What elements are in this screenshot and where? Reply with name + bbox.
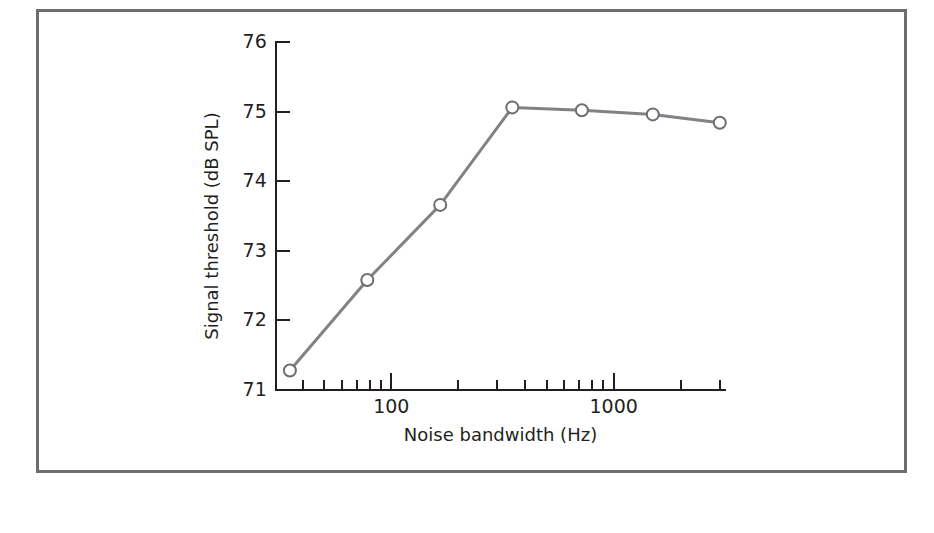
y-axis-title: Signal threshold (dB SPL) [201,56,223,396]
y-axis-tick [277,111,290,113]
y-axis-tick [277,41,290,43]
x-axis-major-tick [613,373,615,389]
y-axis-tick [277,250,290,252]
y-axis-tick-label: 75 [221,102,267,121]
y-axis-tick [277,319,290,321]
x-axis-minor-tick [323,380,325,389]
x-axis-tick-label: 100 [373,396,409,416]
y-axis-tick-label: 76 [221,32,267,51]
x-axis-ticks [275,373,726,389]
x-axis-minor-tick [356,380,358,389]
x-axis-minor-tick [457,380,459,389]
x-axis-minor-tick [524,380,526,389]
x-axis-minor-tick [369,380,371,389]
x-axis-minor-tick [719,380,721,389]
figure-frame [36,9,907,473]
x-axis-spine [275,389,726,391]
x-axis-minor-tick [341,380,343,389]
y-axis-title-wrapper: Signal threshold (dB SPL) [212,60,213,61]
x-axis-minor-tick [496,380,498,389]
y-axis-tick [277,389,290,391]
x-axis-minor-tick [563,380,565,389]
x-axis-minor-tick [380,380,382,389]
x-axis-minor-tick [546,380,548,389]
y-axis-spine [275,41,277,391]
x-axis-major-tick [390,373,392,389]
x-axis-minor-tick [578,380,580,389]
y-axis-tick-label: 72 [221,310,267,329]
x-axis-tick-label: 1000 [589,396,637,416]
x-axis-title: Noise bandwidth (Hz) [275,424,726,446]
y-axis-tick-label: 73 [221,241,267,260]
y-axis-tick [277,180,290,182]
figure-page: 717273747576 1001000 Noise bandwidth (Hz… [0,0,934,533]
x-axis-minor-tick [680,380,682,389]
y-axis-tick-label: 74 [221,171,267,190]
x-axis-minor-tick [602,380,604,389]
x-axis-minor-tick [302,380,304,389]
y-axis-tick-label: 71 [221,380,267,399]
x-axis-minor-tick [591,380,593,389]
